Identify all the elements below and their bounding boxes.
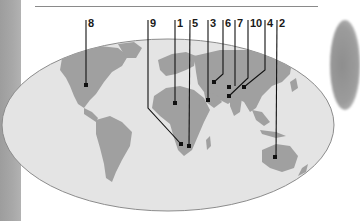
map-label-9: 9 — [150, 18, 156, 29]
map-label-10: 10 — [250, 18, 262, 29]
map-label-6: 6 — [225, 18, 231, 29]
map-label-8: 8 — [88, 18, 94, 29]
map-label-5: 5 — [192, 18, 198, 29]
map-label-7: 7 — [237, 18, 243, 29]
map-label-1: 1 — [177, 18, 183, 29]
map-label-4: 4 — [267, 18, 273, 29]
map-label-3: 3 — [210, 18, 216, 29]
map-label-2: 2 — [279, 18, 285, 29]
